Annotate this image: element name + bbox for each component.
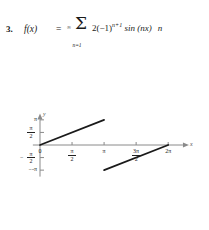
y-tick-label-2-minus: − — [20, 154, 23, 160]
x-tick-label-2: π — [97, 148, 111, 154]
y-tick-label-2: π2 — [24, 151, 38, 165]
y-tick-label-3: −-π — [23, 166, 37, 172]
fraction-numerator: 2(−1)n+1 sin (nx) — [90, 23, 154, 33]
fraction-denominator: n — [158, 23, 163, 33]
y-tick-label-1: π2 — [24, 125, 38, 139]
x-axis-label: x — [190, 141, 193, 147]
exercise-page: 3. f(x) = ∞ Σ n=1 2(−1)n+1 sin (nx) n y … — [0, 0, 209, 230]
x-tick-label-1: π2 — [65, 148, 79, 162]
x-tick-label-4: 2π — [161, 148, 175, 154]
numerator-suffix: sin (nx) — [124, 23, 151, 33]
problem-number: 3. — [6, 24, 13, 34]
equals-sign: = — [56, 24, 61, 34]
fraction: 2(−1)n+1 sin (nx) n — [90, 17, 162, 35]
y-tick-label-0: π — [23, 116, 37, 122]
numerator-exponent: n+1 — [112, 22, 122, 28]
function-notation: f(x) — [24, 24, 37, 34]
sigma-icon: Σ — [75, 13, 87, 33]
x-tick-label-3: 3π2 — [129, 148, 143, 162]
numerator-prefix: 2(−1) — [92, 23, 112, 33]
y-axis-label: y — [43, 111, 46, 117]
graph-area: y x 0π2π3π22πππ2π2−−-π — [0, 44, 209, 230]
sum-upper-limit: ∞ — [67, 24, 71, 30]
